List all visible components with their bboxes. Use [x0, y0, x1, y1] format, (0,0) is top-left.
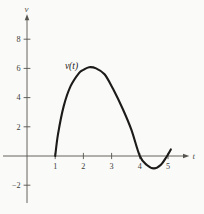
y-axis-arrow-icon: [25, 14, 30, 20]
y-tick-label-8: 8: [17, 35, 21, 44]
y-tick-label-2: 2: [17, 123, 21, 132]
ticks-layer: 123458642−2: [12, 35, 170, 190]
velocity-graph: 123458642−2 v t v(t): [0, 0, 204, 214]
figure-canvas: 123458642−2 v t v(t): [0, 0, 204, 214]
y-tick-label-6: 6: [17, 64, 21, 73]
y-tick-label-−2: −2: [12, 181, 21, 190]
y-axis-label: v: [25, 4, 29, 14]
x-tick-label-5: 5: [166, 162, 170, 171]
x-tick-label-1: 1: [53, 162, 57, 171]
curve-vt: [55, 67, 171, 168]
y-tick-label-4: 4: [17, 93, 21, 102]
curve-label: v(t): [65, 61, 78, 72]
x-tick-label-4: 4: [138, 162, 142, 171]
x-tick-label-3: 3: [110, 162, 114, 171]
x-axis-label: t: [193, 151, 196, 161]
axes-layer: [3, 14, 189, 203]
x-tick-label-2: 2: [81, 162, 85, 171]
x-axis-arrow-icon: [183, 154, 189, 159]
curve-layer: [55, 67, 171, 168]
